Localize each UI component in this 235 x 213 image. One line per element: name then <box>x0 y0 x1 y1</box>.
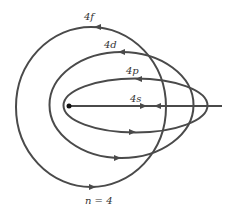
label-4p: 4p <box>125 65 139 76</box>
arrow-left-icon <box>94 24 101 30</box>
arrow-right-icon <box>129 129 136 135</box>
label-4s: 4s <box>129 93 142 104</box>
arrow-left-icon <box>118 49 125 55</box>
arrow-left-icon <box>135 76 142 82</box>
label-4f: 4f <box>83 11 96 22</box>
arrow-left-icon <box>154 103 161 109</box>
arrow-right-icon <box>114 155 121 161</box>
orbit-diagram: 4f 4d 4p 4s n = 4 <box>0 0 235 213</box>
arrow-right-icon <box>89 184 96 190</box>
label-4d: 4d <box>103 39 117 50</box>
nucleus <box>67 104 72 109</box>
label-n: n = 4 <box>85 195 113 206</box>
